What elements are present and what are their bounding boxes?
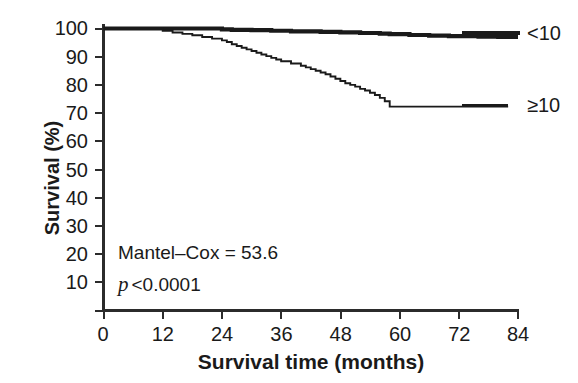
p-symbol: p — [118, 272, 132, 296]
mantel-cox-annotation: Mantel–Cox = 53.6 — [118, 243, 278, 262]
y-tick-label-90: 90 — [32, 47, 88, 67]
x-axis-label: Survival time (months) — [103, 351, 519, 372]
x-tick-label-48: 48 — [330, 324, 352, 344]
x-tick-label-12: 12 — [152, 324, 174, 344]
p-value-text: <0.0001 — [132, 274, 201, 295]
y-axis-ticks — [95, 29, 103, 311]
x-tick-label-24: 24 — [211, 324, 233, 344]
x-tick-label-36: 36 — [270, 324, 292, 344]
x-tick-label-84: 84 — [507, 324, 529, 344]
y-axis-label: Survival (%) — [42, 68, 62, 288]
survival-chart-figure: 100 90 80 70 60 50 40 30 20 10 0 12 24 3… — [0, 0, 578, 383]
legend-label-lt10: <10 — [527, 23, 561, 43]
y-tick-label-100: 100 — [32, 18, 88, 38]
x-tick-label-72: 72 — [448, 324, 470, 344]
legend-label-ge10: ≥10 — [527, 95, 560, 115]
survival-curve-ge10 — [104, 29, 509, 107]
x-tick-label-0: 0 — [97, 324, 108, 344]
x-tick-label-60: 60 — [389, 324, 411, 344]
survival-curve-lt10 — [104, 29, 519, 37]
p-value-annotation: p<0.0001 — [118, 274, 201, 295]
